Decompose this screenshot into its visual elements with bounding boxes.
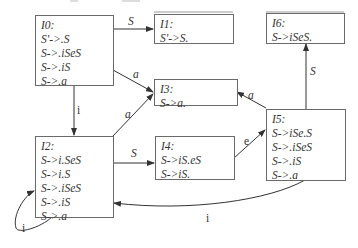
edge-I4-I5 xyxy=(234,130,265,158)
state-title: I5: xyxy=(272,112,345,126)
edge-I2-I3 xyxy=(113,94,153,136)
state-I6: I6: S->iSeS. xyxy=(266,13,345,44)
state-I4: I4: S->iS.eS S->iS. xyxy=(155,136,235,180)
state-I1: I1: S'->S. xyxy=(154,14,234,44)
edge-label-I5-I3: a xyxy=(248,89,254,101)
state-title: I1: xyxy=(160,17,233,31)
item: S->.iSeS xyxy=(272,140,345,154)
item: S->.a xyxy=(41,209,113,223)
state-title: I3: xyxy=(160,82,237,96)
edge-label-I5-I6: S xyxy=(310,65,316,77)
state-I3: I3: S->a. xyxy=(154,79,238,106)
edge-label-I0-I2: i xyxy=(77,104,80,116)
item: S->.iSeS xyxy=(41,181,113,195)
item: S'->.S xyxy=(41,32,113,46)
edge-label-I5-I2: i xyxy=(206,212,209,224)
item: S->iS. xyxy=(161,167,234,181)
item: S->iS.eS xyxy=(161,153,234,167)
edge-label-I2-I3: a xyxy=(125,108,131,120)
edge-I5-I2 xyxy=(114,180,305,206)
top-cropped-strokes xyxy=(70,1,344,12)
item: S'->S. xyxy=(160,31,233,45)
edge-label-I0-I1: S xyxy=(128,15,134,27)
item: S->a. xyxy=(160,96,237,110)
state-I2: I2: S->i.SeS S->i.S S->.iSeS S->.iS S->.… xyxy=(35,136,114,218)
state-title: I4: xyxy=(161,139,234,153)
edge-label-I0-I3: a xyxy=(133,68,139,80)
item: S->.iS xyxy=(41,60,113,74)
item: S->iSe.S xyxy=(272,126,345,140)
item: S->.a xyxy=(41,74,113,88)
item: S->.iSeS xyxy=(41,46,113,60)
figure-caption xyxy=(20,238,350,248)
edge-label-I4-I5: e xyxy=(244,135,249,147)
edge-label-I2-I4: S xyxy=(131,147,137,159)
state-title: I6: xyxy=(272,16,344,30)
item: S->i.SeS xyxy=(41,153,113,167)
item: S->.iS xyxy=(41,195,113,209)
state-title: I0: xyxy=(41,18,113,32)
item: S->.a xyxy=(272,168,345,182)
item: S->iSeS. xyxy=(272,30,344,44)
item: S->.iS xyxy=(272,154,345,168)
state-I5: I5: S->iSe.S S->.iSeS S->.iS S->.a xyxy=(266,109,346,181)
state-title: I2: xyxy=(41,139,113,153)
edge-label-I2-self: i xyxy=(22,222,25,234)
item: S->i.S xyxy=(41,167,113,181)
state-I0: I0: S'->.S S->.iSeS S->.iS S->.a xyxy=(35,15,114,86)
